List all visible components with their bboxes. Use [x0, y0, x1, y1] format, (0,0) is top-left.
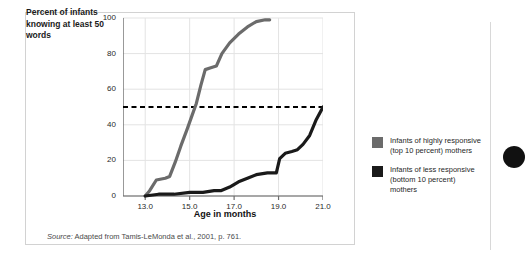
- plot-area: [123, 14, 323, 204]
- x-axis-title: Age in months: [140, 209, 310, 219]
- legend-entry: Infants of less responsive (bottom 10 pe…: [372, 165, 484, 195]
- legend-swatch-icon: [372, 166, 383, 177]
- y-tick-label: 60: [92, 84, 116, 93]
- x-tick-label: 21.0: [308, 202, 338, 211]
- chart-svg: [123, 14, 323, 204]
- legend-swatch-icon: [372, 137, 383, 148]
- legend-entry: Infants of highly responsive (top 10 per…: [372, 136, 484, 156]
- right-divider: [490, 22, 491, 250]
- y-tick-label: 40: [92, 120, 116, 129]
- chart-legend: Infants of highly responsive (top 10 per…: [372, 136, 484, 204]
- tick-marks: [123, 18, 323, 200]
- corner-circle-decoration: [503, 146, 525, 168]
- y-tick-label: 20: [92, 155, 116, 164]
- y-tick-label: 0: [92, 191, 116, 200]
- source-note: Source: Adapted from Tamis-LeMonda et al…: [47, 232, 241, 241]
- source-label: Source:: [47, 232, 73, 241]
- y-tick-label: 100: [92, 13, 116, 22]
- source-citation: Adapted from Tamis-LeMonda et al., 2001,…: [73, 232, 241, 241]
- legend-label: Infants of highly responsive (top 10 per…: [390, 136, 484, 156]
- legend-label: Infants of less responsive (bottom 10 pe…: [390, 165, 484, 195]
- y-tick-label: 80: [92, 49, 116, 58]
